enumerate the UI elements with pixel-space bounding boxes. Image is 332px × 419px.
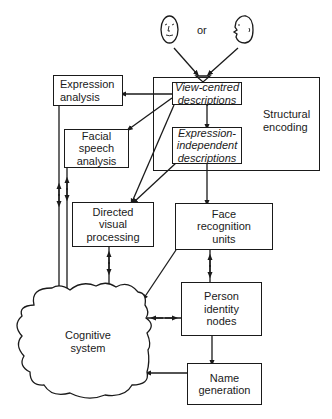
name-generation-node: Name generation	[187, 363, 262, 405]
profile-face-icon	[234, 16, 253, 43]
face-recognition-units-node: Face recognition units	[175, 203, 273, 250]
person-identity-nodes-node: Person identity nodes	[181, 282, 262, 336]
diagram-wires	[0, 0, 332, 419]
structural-encoding-label: Structural encoding	[263, 108, 310, 133]
front-face-icon	[161, 16, 178, 43]
directed-visual-processing-node: Directed visual processing	[72, 202, 154, 247]
expression-independent-descriptions-node: Expression- independent descriptions	[172, 127, 242, 164]
expression-analysis-node: Expression analysis	[53, 75, 123, 106]
or-label: or	[197, 24, 207, 37]
view-centred-descriptions-node: View-centred descriptions	[172, 82, 242, 105]
cognitive-system-label: Cognitive system	[58, 329, 118, 354]
facial-speech-analysis-node: Facial speech analysis	[64, 129, 129, 168]
